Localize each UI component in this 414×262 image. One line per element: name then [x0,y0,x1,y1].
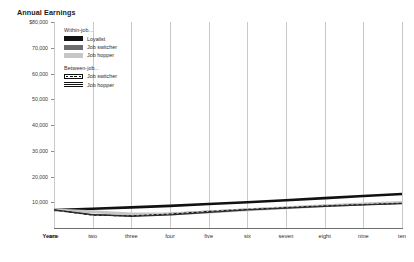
legend-item-label: Loyalist [87,36,105,42]
y-tick-label: 30,000 [8,148,48,154]
x-tick-label: one [34,233,74,239]
x-tick-label: three [111,233,151,239]
legend-item-label: Job switcher [87,73,117,79]
legend-item[interactable]: Loyalist [64,36,154,43]
legend-item[interactable]: Job hopper [64,81,154,88]
legend-group-heading: Between-job... [64,65,154,71]
x-tick-label: ten [382,233,414,239]
x-tick-label: seven [266,233,306,239]
x-tick-label: two [73,233,113,239]
series-line [54,194,402,210]
y-tick-label: 10,000 [8,199,48,205]
y-tick-label: 20,000 [8,174,48,180]
legend-swatch-icon [64,53,83,58]
x-tick-label: nine [343,233,383,239]
chart-title: Annual Earnings [17,8,76,17]
chart-legend: Within-job...LoyalistJob switcherJob hop… [64,27,154,90]
x-tick-label: eight [305,233,345,239]
y-tick-label: 60,000 [8,71,48,77]
legend-item-label: Job switcher [87,44,117,50]
legend-item[interactable]: Job switcher [64,44,154,51]
legend-swatch-icon [64,74,83,79]
legend-item-label: Job hopper [87,52,114,58]
x-axis-line [54,228,403,229]
legend-item-label: Job hopper [87,82,114,88]
y-tick-label: $80,000 [8,19,48,25]
chart-container: Annual Earnings $80,00070,00060,00050,00… [0,0,414,262]
x-tick-label: five [189,233,229,239]
y-tick-label: 40,000 [8,122,48,128]
legend-swatch-icon [64,36,83,41]
gridline [402,22,403,228]
legend-swatch-icon [64,82,83,87]
legend-item[interactable]: Job hopper [64,52,154,59]
y-tick-label: 70,000 [8,45,48,51]
x-tick-label: four [150,233,190,239]
legend-swatch-icon [64,45,83,50]
legend-group-heading: Within-job... [64,27,154,33]
y-tick-label: 50,000 [8,96,48,102]
legend-item[interactable]: Job switcher [64,73,154,80]
x-tick-label: six [227,233,267,239]
